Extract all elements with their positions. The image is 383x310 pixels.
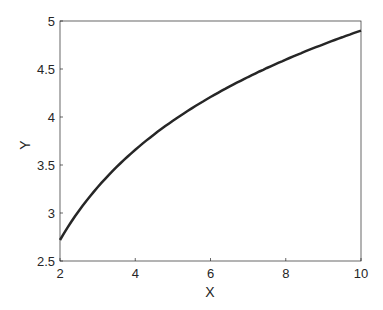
y-tick-label: 5 (48, 14, 55, 29)
x-ticks: 246810 (56, 258, 368, 281)
y-axis-label: Y (17, 140, 33, 150)
y-tick-label: 3.5 (37, 158, 55, 173)
y-tick-label: 3 (48, 206, 55, 221)
x-axis-label: X (205, 284, 215, 300)
plot-area (60, 21, 361, 261)
y-tick-label: 4.5 (37, 62, 55, 77)
y-tick-label: 2.5 (37, 254, 55, 269)
y-tick-label: 4 (48, 110, 55, 125)
chart: 246810 2.533.544.55 X Y (0, 0, 383, 310)
x-tick-label: 10 (354, 266, 368, 281)
y-ticks: 2.533.544.55 (37, 14, 63, 269)
x-tick-label: 6 (207, 266, 214, 281)
x-tick-label: 2 (56, 266, 63, 281)
x-tick-label: 4 (132, 266, 139, 281)
x-tick-label: 8 (282, 266, 289, 281)
